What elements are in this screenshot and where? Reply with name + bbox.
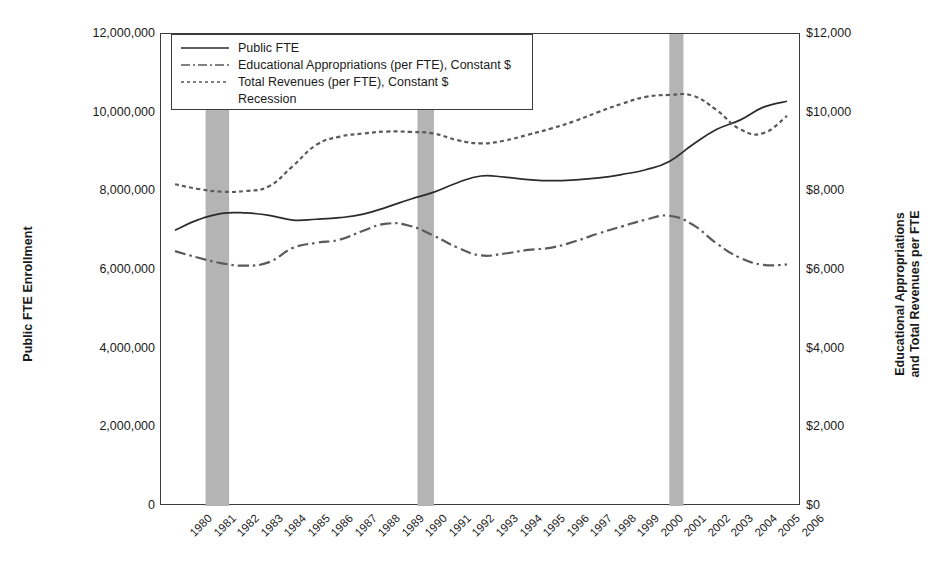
chart-legend: Public FTE Educational Appropriations (p… bbox=[171, 34, 533, 110]
legend-label-public-fte: Public FTE bbox=[238, 42, 299, 54]
series-line-1 bbox=[175, 215, 787, 265]
x-tick-2002: 2002 bbox=[705, 512, 732, 539]
y-tick-right-0: $0 bbox=[806, 498, 820, 512]
x-tick-1997: 1997 bbox=[588, 512, 615, 539]
series-line-0 bbox=[175, 101, 787, 230]
legend-key-recession-swatch bbox=[179, 93, 231, 105]
x-tick-1991: 1991 bbox=[446, 512, 473, 539]
y-axis-left-title: Public FTE Enrollment bbox=[8, 0, 48, 587]
x-tick-1993: 1993 bbox=[493, 512, 520, 539]
y-axis-left-title-text: Public FTE Enrollment bbox=[21, 226, 35, 361]
y-tick-left-6: 12,000,000 bbox=[92, 26, 155, 40]
y-tick-right-2: $4,000 bbox=[806, 341, 844, 355]
y-tick-left-1: 2,000,000 bbox=[99, 419, 155, 433]
x-tick-1999: 1999 bbox=[635, 512, 662, 539]
legend-item-total-revenues: Total Revenues (per FTE), Constant $ bbox=[179, 73, 526, 90]
x-tick-1990: 1990 bbox=[423, 512, 450, 539]
legend-label-total-revenues: Total Revenues (per FTE), Constant $ bbox=[238, 76, 449, 88]
x-tick-2005: 2005 bbox=[776, 512, 803, 539]
x-tick-2001: 2001 bbox=[682, 512, 709, 539]
y-tick-left-5: 10,000,000 bbox=[92, 105, 155, 119]
x-tick-1985: 1985 bbox=[305, 512, 332, 539]
y-tick-right-1: $2,000 bbox=[806, 419, 844, 433]
x-tick-2000: 2000 bbox=[658, 512, 685, 539]
y-tick-right-5: $10,000 bbox=[806, 105, 851, 119]
x-tick-1995: 1995 bbox=[541, 512, 568, 539]
x-tick-1986: 1986 bbox=[329, 512, 356, 539]
legend-key-dashdot bbox=[179, 59, 231, 71]
y-tick-left-0: 0 bbox=[148, 498, 155, 512]
x-tick-2003: 2003 bbox=[729, 512, 756, 539]
x-tick-2004: 2004 bbox=[752, 512, 779, 539]
y-tick-right-4: $8,000 bbox=[806, 183, 844, 197]
x-tick-1988: 1988 bbox=[376, 512, 403, 539]
x-tick-1983: 1983 bbox=[258, 512, 285, 539]
y-tick-left-2: 4,000,000 bbox=[99, 341, 155, 355]
recession-band-2 bbox=[669, 34, 683, 506]
x-tick-2006: 2006 bbox=[799, 512, 826, 539]
legend-item-educational-appropriations: Educational Appropriations (per FTE), Co… bbox=[179, 56, 526, 73]
legend-key-dotted bbox=[179, 76, 231, 88]
x-tick-1994: 1994 bbox=[517, 512, 544, 539]
legend-label-recession: Recession bbox=[238, 93, 296, 105]
legend-item-public-fte: Public FTE bbox=[179, 39, 526, 56]
legend-key-solid bbox=[179, 42, 231, 54]
x-tick-1989: 1989 bbox=[399, 512, 426, 539]
y-axis-right-title: Educational Appropriations and Total Rev… bbox=[881, 0, 935, 587]
y-tick-right-3: $6,000 bbox=[806, 262, 844, 276]
x-tick-1996: 1996 bbox=[564, 512, 591, 539]
legend-item-recession: Recession bbox=[179, 90, 526, 107]
x-tick-1987: 1987 bbox=[352, 512, 379, 539]
x-tick-1998: 1998 bbox=[611, 512, 638, 539]
x-tick-1980: 1980 bbox=[187, 512, 214, 539]
y-axis-right-title-line2: and Total Revenues per FTE bbox=[908, 210, 923, 377]
legend-label-educational-appropriations: Educational Appropriations (per FTE), Co… bbox=[238, 59, 511, 71]
x-tick-1984: 1984 bbox=[282, 512, 309, 539]
y-tick-left-3: 6,000,000 bbox=[99, 262, 155, 276]
y-axis-right-title-line1: Educational Appropriations bbox=[893, 210, 908, 377]
x-tick-1992: 1992 bbox=[470, 512, 497, 539]
chart-root: Public FTE Enrollment Educational Approp… bbox=[0, 0, 937, 587]
x-tick-1982: 1982 bbox=[235, 512, 262, 539]
y-tick-left-4: 8,000,000 bbox=[99, 183, 155, 197]
x-tick-1981: 1981 bbox=[211, 512, 238, 539]
y-tick-right-6: $12,000 bbox=[806, 26, 851, 40]
